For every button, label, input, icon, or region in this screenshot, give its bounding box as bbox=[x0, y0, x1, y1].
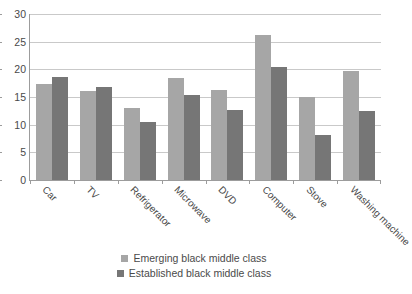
bar-group bbox=[293, 14, 337, 180]
bar bbox=[227, 110, 243, 180]
legend-label: Established black middle class bbox=[129, 267, 271, 279]
bar bbox=[96, 87, 112, 180]
y-axis-tick-mark bbox=[0, 97, 2, 98]
x-axis-label-slot: DVD bbox=[206, 182, 250, 248]
y-axis-tick-mark bbox=[0, 14, 2, 15]
chart-legend: Emerging black middle class Established … bbox=[0, 252, 388, 279]
y-axis-tick-label: 25 bbox=[2, 37, 26, 47]
x-axis-category-label: DVD bbox=[216, 184, 239, 207]
bar bbox=[271, 67, 287, 180]
x-axis-label-slot: Stove bbox=[294, 182, 338, 248]
y-axis-tick-label: 20 bbox=[2, 64, 26, 74]
plot-area bbox=[29, 14, 381, 180]
legend-item-established: Established black middle class bbox=[117, 267, 271, 279]
x-axis-category-label: TV bbox=[84, 184, 101, 201]
x-axis-label-slot: Washing machine bbox=[338, 182, 382, 248]
legend-swatch-icon bbox=[121, 255, 128, 262]
bar-group bbox=[249, 14, 293, 180]
y-axis-tick-mark bbox=[0, 42, 2, 43]
legend-item-emerging: Emerging black middle class bbox=[121, 252, 266, 264]
bar bbox=[124, 108, 140, 180]
y-axis-tick-mark bbox=[0, 180, 2, 181]
legend-label: Emerging black middle class bbox=[133, 252, 266, 264]
y-axis-tick-mark bbox=[0, 69, 2, 70]
y-axis-tick-mark bbox=[0, 152, 2, 153]
x-axis-label-slot: Car bbox=[30, 182, 74, 248]
y-axis-tick-label: 15 bbox=[2, 92, 26, 102]
x-axis-category-labels: CarTVRefrigeratorMicrowaveDVDComputerSto… bbox=[30, 182, 382, 248]
x-axis-label-slot: Refrigerator bbox=[118, 182, 162, 248]
y-axis-tick-label: 5 bbox=[2, 147, 26, 157]
bar bbox=[52, 77, 68, 180]
bar-group bbox=[74, 14, 118, 180]
bar bbox=[359, 111, 375, 180]
bar bbox=[315, 135, 331, 180]
x-axis-category-label: Washing machine bbox=[348, 184, 412, 248]
bar bbox=[80, 91, 96, 180]
y-axis-tick-label: 30 bbox=[2, 9, 26, 19]
bar-group bbox=[162, 14, 206, 180]
x-axis-category-label: Car bbox=[40, 184, 59, 203]
bar-group bbox=[30, 14, 74, 180]
bar bbox=[168, 78, 184, 180]
bar-group bbox=[206, 14, 250, 180]
bar bbox=[343, 71, 359, 180]
bar-groups bbox=[30, 14, 381, 180]
y-axis-tick-mark bbox=[0, 125, 2, 126]
bar bbox=[140, 122, 156, 180]
bar-group bbox=[337, 14, 381, 180]
bar bbox=[255, 35, 271, 180]
bar-group bbox=[118, 14, 162, 180]
bar bbox=[211, 90, 227, 180]
bar bbox=[299, 97, 315, 180]
bar bbox=[36, 84, 52, 180]
y-axis-tick-label: 0 bbox=[2, 175, 26, 185]
x-axis-label-slot: TV bbox=[74, 182, 118, 248]
legend-swatch-icon bbox=[117, 270, 124, 277]
x-axis-category-label: Stove bbox=[304, 184, 330, 210]
x-axis-label-slot: Computer bbox=[250, 182, 294, 248]
bar bbox=[184, 95, 200, 180]
y-axis-tick-label: 10 bbox=[2, 120, 26, 130]
x-axis-label-slot: Microwave bbox=[162, 182, 206, 248]
